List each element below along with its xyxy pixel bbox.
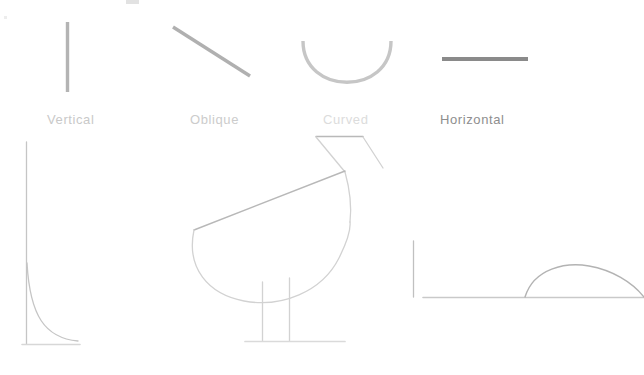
- bird-head-right-edge: [363, 137, 383, 168]
- bird-figure: [192, 137, 383, 342]
- left-corner-figure: [22, 142, 80, 345]
- curved-stroke-sample: [303, 41, 391, 82]
- bird-neck-curve: [345, 172, 351, 222]
- bird-body-curve: [192, 222, 350, 303]
- scan-artifact-speck-small: [4, 16, 7, 19]
- legend-stroke-samples: [68, 22, 529, 92]
- oblique-stroke-sample: [173, 27, 250, 76]
- bird-beak-lower-edge: [316, 137, 345, 172]
- right-arch-figure: [414, 241, 644, 298]
- figure-svg: [0, 0, 644, 375]
- left-figure-curve: [27, 263, 78, 341]
- scan-artifact-speck: [126, 0, 139, 4]
- bird-back-line: [194, 171, 345, 230]
- right-figure-arch: [525, 265, 644, 297]
- illustration-canvas: Vertical Oblique Curved Horizontal: [0, 0, 644, 375]
